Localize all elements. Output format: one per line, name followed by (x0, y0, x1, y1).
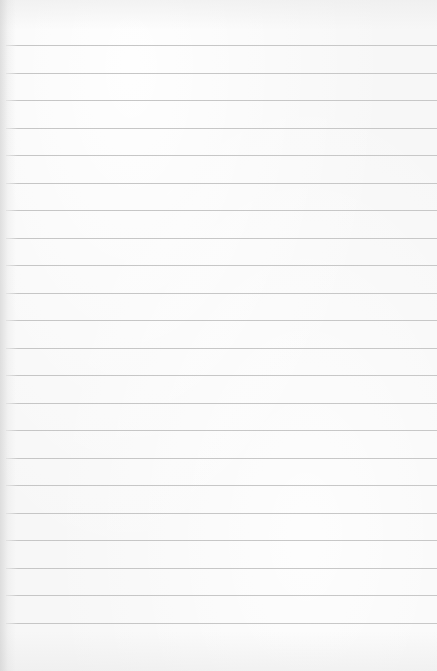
ruled-line (6, 348, 437, 349)
ruled-line (6, 293, 437, 294)
ruled-line (6, 128, 437, 129)
ruled-line (6, 320, 437, 321)
ruled-line (6, 375, 437, 376)
ruled-line (6, 595, 437, 596)
ruled-line (6, 183, 437, 184)
ruled-line (6, 458, 437, 459)
ruled-line (6, 100, 437, 101)
paper-top-texture (0, 0, 437, 30)
ruled-line (6, 623, 437, 624)
ruled-line (6, 403, 437, 404)
ruled-line (6, 430, 437, 431)
ruled-line (6, 265, 437, 266)
ruled-line (6, 155, 437, 156)
ruled-line (6, 513, 437, 514)
ruled-line (6, 568, 437, 569)
ruled-line (6, 45, 437, 46)
ruled-line (6, 73, 437, 74)
lined-paper (0, 0, 437, 671)
ruled-line (6, 210, 437, 211)
ruled-line (6, 485, 437, 486)
ruled-line (6, 238, 437, 239)
paper-bottom-texture (0, 631, 437, 671)
ruled-line (6, 540, 437, 541)
